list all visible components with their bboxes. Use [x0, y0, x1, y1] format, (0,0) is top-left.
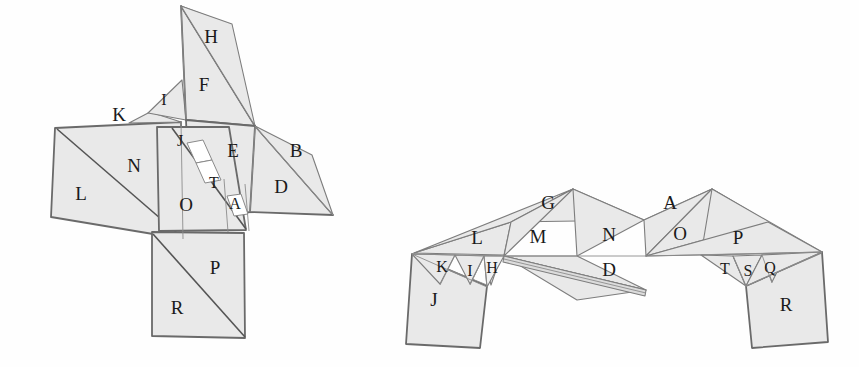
face-panel-N: [573, 189, 644, 256]
label-J: J: [430, 289, 437, 310]
right-net-diagram: G A L M N O P K I H D T S Q J R: [406, 189, 828, 348]
label-L: L: [471, 227, 483, 248]
label-Q: Q: [764, 259, 776, 276]
label-F: F: [199, 74, 210, 95]
label-E: E: [227, 140, 239, 161]
face-panel-D: [250, 126, 333, 215]
label-P: P: [210, 257, 221, 278]
label-I: I: [467, 262, 472, 279]
label-J: J: [177, 132, 183, 149]
label-T: T: [209, 174, 219, 191]
label-A: A: [663, 192, 677, 213]
label-D: D: [602, 259, 616, 280]
label-R: R: [171, 297, 184, 318]
label-P: P: [733, 227, 744, 248]
label-I: I: [161, 91, 166, 108]
label-R: R: [780, 294, 793, 315]
label-A: A: [229, 195, 241, 212]
label-G: G: [541, 192, 555, 213]
label-D: D: [274, 176, 288, 197]
label-N: N: [602, 224, 616, 245]
label-M: M: [530, 226, 547, 247]
diagram-canvas: H F I K J E B N T D L O A P R: [0, 0, 859, 367]
label-H: H: [204, 26, 218, 47]
label-L: L: [75, 183, 87, 204]
label-K: K: [436, 258, 448, 275]
label-K: K: [112, 104, 126, 125]
label-T: T: [720, 260, 730, 277]
label-B: B: [290, 140, 303, 161]
label-H: H: [486, 259, 498, 276]
label-N: N: [127, 155, 141, 176]
label-O: O: [673, 223, 687, 244]
label-S: S: [744, 262, 753, 279]
face-panel-I: [148, 80, 186, 120]
net-diagrams-svg: H F I K J E B N T D L O A P R: [0, 0, 859, 367]
label-O: O: [179, 194, 193, 215]
left-net-diagram: H F I K J E B N T D L O A P R: [51, 6, 333, 338]
